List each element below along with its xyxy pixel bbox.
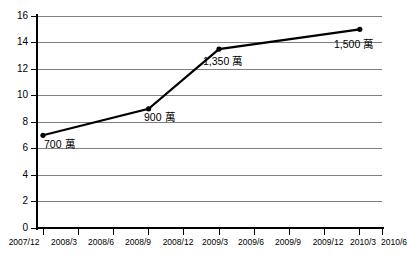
data-label-1500-unit: 萬 <box>363 38 373 50</box>
data-label-900-unit: 萬 <box>165 111 175 123</box>
data-point-1350 <box>216 47 221 52</box>
data-label-700: 700萬 <box>44 138 75 150</box>
data-label-1500: 1,500萬 <box>334 38 373 50</box>
data-label-1350: 1,350萬 <box>203 55 242 67</box>
data-label-700-unit: 萬 <box>65 138 75 150</box>
data-label-1350-value: 1,350 <box>203 55 229 67</box>
data-label-1500-value: 1,500 <box>334 38 360 50</box>
data-point-1500 <box>357 27 362 32</box>
data-label-1350-unit: 萬 <box>232 55 242 67</box>
data-label-900-value: 900 <box>144 111 162 123</box>
data-label-900: 900萬 <box>144 111 175 123</box>
data-label-700-value: 700 <box>44 138 62 150</box>
